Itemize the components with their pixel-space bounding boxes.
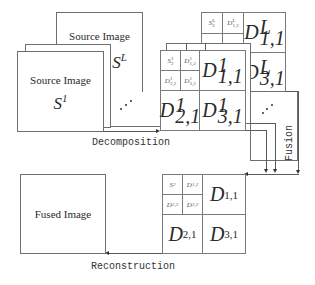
level-1-d31: D13,1 (199, 90, 246, 131)
source-image-L-title: Source Image (57, 30, 142, 42)
level-1-d32: D13,2 (180, 70, 200, 91)
fused-image: Fused Image (20, 174, 106, 254)
fusion-label: Fusion (284, 125, 295, 161)
fused-s2: S2 (162, 174, 183, 195)
ellipsis-dot (266, 108, 268, 110)
fusion-connector-3-v (298, 91, 299, 171)
level-L-s2: SL2 (201, 12, 223, 34)
ellipsis-dot (262, 112, 264, 114)
level-L-d12: DL1,2 (222, 12, 244, 34)
level-1-d22: D12,2 (160, 70, 181, 91)
fusion-connector-2-h (250, 123, 276, 124)
fused-d31: D3,1 (202, 214, 246, 254)
level-1-d21: D12,1 (160, 90, 200, 131)
fusion-connector-3-h (286, 91, 298, 92)
fusion-connector-1-v (266, 130, 267, 170)
ellipsis-dot (271, 104, 273, 106)
fused-d21: D2,1 (162, 214, 203, 254)
source-image-1: Source Image S1 (17, 51, 104, 132)
fusion-connector-2-v (275, 123, 276, 170)
intermediate-layer-dots (103, 92, 161, 127)
reconstruction-label: Reconstruction (91, 261, 175, 272)
ellipsis-dot (125, 104, 127, 106)
fusion-connector-1-h (246, 130, 267, 131)
ellipsis-dot (130, 100, 132, 102)
fusion-arrow-head-2 (273, 169, 277, 173)
fused-d32: D3,2 (182, 194, 203, 215)
source-image-1-symbol: S1 (18, 92, 103, 114)
ellipsis-dot (120, 108, 122, 110)
fused-image-title: Fused Image (21, 208, 105, 220)
level-1-s2: S12 (160, 50, 181, 71)
reconstruction-arrow-line (109, 253, 162, 254)
fusion-arrow-head-1 (264, 169, 268, 173)
level-1-d11: D11,1 (199, 50, 246, 91)
decomposition-label: Decomposition (92, 137, 170, 148)
fused-d22: D2,2 (162, 194, 183, 215)
level-1-d12: D11,2 (180, 50, 200, 71)
source-image-1-title: Source Image (18, 74, 103, 86)
fused-d12: D1,2 (182, 174, 203, 195)
fusion-merge-line (247, 174, 299, 175)
fused-d11: D1,1 (202, 174, 246, 215)
decomposition-arrow-line (104, 131, 157, 132)
